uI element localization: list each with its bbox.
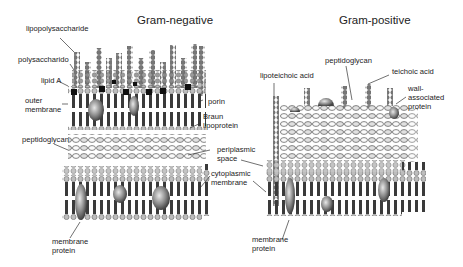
membrane-protein-icon bbox=[285, 178, 295, 214]
gram-negative-structure bbox=[62, 44, 210, 220]
porin-icon bbox=[129, 96, 139, 116]
peptidoglycan-layer bbox=[280, 104, 408, 160]
membrane-protein-icon bbox=[152, 186, 170, 210]
peptidoglycan-layer bbox=[68, 134, 206, 160]
label-peptidoglycan-positive: peptidoglycan bbox=[325, 57, 372, 66]
gram-negative-title: Gram-negative bbox=[137, 14, 213, 26]
porin-protein-icon bbox=[88, 99, 104, 121]
label-lipopolysaccharide: lipopolysaccharide bbox=[26, 25, 88, 34]
membrane-protein-icon bbox=[75, 184, 87, 220]
label-lipoteichoic-acid: lipoteichoic acid bbox=[260, 72, 314, 81]
label-porin: porin bbox=[208, 98, 225, 107]
label-peptidoglycan-negative: peptidoglycan bbox=[22, 136, 69, 145]
membrane-protein-icon bbox=[113, 185, 127, 203]
label-lipid-a: lipid A bbox=[41, 77, 61, 86]
membrane-protein-icon bbox=[378, 178, 390, 202]
gram-positive-structure bbox=[266, 84, 426, 216]
cell-wall-diagram bbox=[0, 0, 463, 267]
membrane-protein-icon bbox=[321, 196, 333, 212]
label-polysaccharide: polysaccharido bbox=[18, 56, 69, 65]
label-teichoic-acid: teichoic acid bbox=[392, 68, 434, 77]
wall-associated-protein-icon bbox=[389, 107, 399, 119]
gram-positive-title: Gram-positive bbox=[339, 14, 411, 26]
